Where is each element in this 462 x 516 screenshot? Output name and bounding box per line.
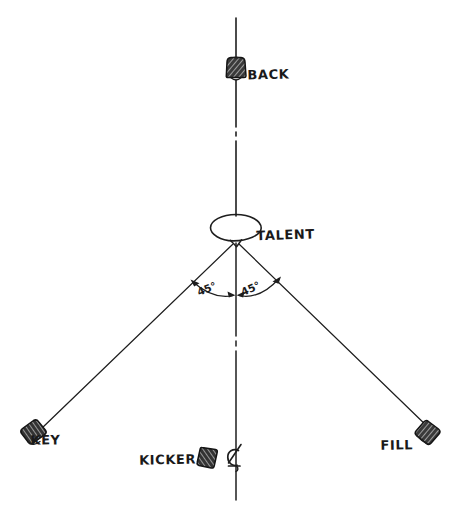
kicker-light-group — [197, 447, 217, 468]
talent-label: TALENT — [256, 226, 315, 243]
diagram-canvas: BACK TALENT 45° 45° — [0, 0, 462, 516]
back-label: BACK — [247, 66, 290, 82]
angle-right-label: 45° — [239, 279, 262, 298]
key-beam-line — [41, 245, 233, 430]
lamp-fixture-icon-kicker — [197, 447, 217, 468]
talent-group — [211, 215, 262, 247]
lamp-fixture-icon-fill — [415, 421, 440, 445]
angle-left-arrowhead-center — [228, 292, 236, 298]
lamp-fixture-icon-back — [226, 58, 246, 78]
fill-label: FILL — [380, 437, 413, 453]
camera-icon — [228, 445, 241, 472]
angle-right-group: 45° — [237, 277, 282, 298]
key-label: KEY — [30, 432, 60, 448]
angle-left-group: 45° — [191, 279, 236, 298]
fill-light-group — [415, 421, 440, 445]
fill-beam-line — [240, 245, 431, 430]
talent-head-icon — [211, 215, 262, 241]
camera-lens-axis — [229, 445, 242, 464]
lighting-diagram: BACK TALENT 45° 45° — [0, 0, 462, 516]
kicker-label: KICKER — [139, 452, 196, 468]
back-light-group — [226, 58, 246, 80]
